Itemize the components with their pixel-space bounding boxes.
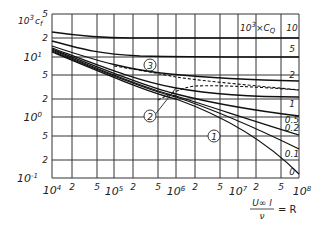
svg-text:2: 2 [42, 33, 48, 43]
svg-text:U∞ l: U∞ l [252, 198, 272, 208]
svg-text:2: 2 [130, 182, 136, 192]
svg-text:2: 2 [289, 70, 295, 80]
svg-text:0.1: 0.1 [285, 149, 299, 159]
svg-text:5: 5 [155, 182, 161, 192]
svg-text:ν: ν [259, 211, 264, 221]
svg-text:108: 108 [293, 185, 312, 198]
y-axis-title: 103cf [18, 14, 44, 28]
svg-text:2: 2 [253, 182, 259, 192]
x-axis-title: U∞ l ν = R [250, 198, 297, 221]
svg-text:5: 5 [289, 44, 295, 54]
svg-text:0: 0 [289, 167, 295, 177]
y-tick-labels: 5 2 101 5 2 100 5 2 10-1 [17, 9, 48, 185]
legend-title: 103×CQ [240, 21, 276, 35]
svg-text:10-1: 10-1 [17, 172, 38, 185]
annotation-2-label: 2 [147, 112, 153, 122]
svg-text:106: 106 [167, 185, 186, 198]
svg-text:10: 10 [286, 23, 298, 33]
cq-labels: 10 5 2 1 0.5 0.2 0.1 0 [285, 23, 300, 177]
x-tick-labels: 104 2 5 105 2 5 106 2 5 107 2 5 108 [43, 182, 312, 198]
svg-text:5: 5 [42, 131, 48, 141]
svg-text:100: 100 [24, 111, 43, 124]
svg-text:5: 5 [94, 182, 100, 192]
svg-text:107: 107 [229, 185, 248, 198]
svg-text:2: 2 [69, 182, 75, 192]
svg-text:5: 5 [42, 70, 48, 80]
annotation-3-label: 3 [147, 61, 153, 71]
svg-text:5: 5 [42, 9, 48, 19]
svg-text:= R: = R [278, 204, 297, 215]
svg-text:104: 104 [43, 184, 61, 197]
svg-text:5: 5 [278, 182, 284, 192]
annotations [144, 59, 220, 142]
svg-text:105: 105 [105, 185, 124, 198]
svg-text:5: 5 [217, 182, 223, 192]
svg-text:2: 2 [42, 94, 48, 104]
svg-text:101: 101 [24, 51, 42, 64]
annotation-1-label: 1 [211, 132, 217, 142]
svg-text:0.2: 0.2 [285, 123, 300, 133]
svg-text:2: 2 [42, 155, 48, 165]
svg-text:1: 1 [289, 99, 295, 109]
chart: 3 2 1 5 2 101 5 2 100 5 2 10-1 104 2 5 1… [0, 0, 322, 228]
svg-text:2: 2 [192, 182, 198, 192]
